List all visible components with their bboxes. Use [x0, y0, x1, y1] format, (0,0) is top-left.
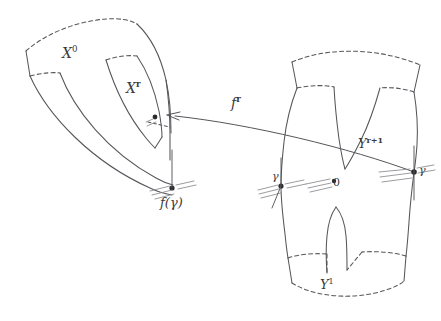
label-y1-sup: 1 — [329, 277, 334, 286]
left-region-group — [26, 19, 173, 195]
y1-notch-right-dashed-cap — [347, 252, 362, 270]
label-fr-sup: r — [236, 94, 241, 104]
yr1-left-outer-side — [281, 88, 297, 258]
hatch-marks-group — [146, 119, 435, 199]
tick-lines-group — [172, 146, 414, 208]
label-y1-base: Y — [320, 277, 329, 292]
label-yr1-sup: r+1 — [367, 135, 384, 145]
label-y1: Y1 — [320, 277, 334, 292]
x0-left-lower-dashed — [30, 73, 60, 76]
yr1-right-inner-dashed — [380, 88, 414, 92]
yr1-inner-notch-right — [345, 88, 380, 169]
y1-inner-leg-right — [336, 207, 347, 270]
label-fr: fr — [231, 94, 241, 111]
y1-left-skirt-edge — [288, 258, 292, 283]
label-x0-base: X — [62, 45, 72, 61]
xr-inner-left-boundary — [106, 60, 155, 148]
label-x0-sup: 0 — [72, 44, 78, 54]
arrow-target-point — [153, 115, 158, 120]
xr-slit-bottom — [155, 137, 162, 148]
xr-top-dashed-boundary — [106, 56, 137, 60]
y1-right-skirt-edge — [404, 256, 406, 281]
label-xr-base: X — [126, 80, 136, 96]
right-region-group — [281, 51, 420, 296]
label-xr-sup: r — [136, 79, 141, 89]
x0-top-dashed-boundary — [26, 19, 137, 51]
hatch-gamma-left — [258, 180, 306, 198]
hatch-zero — [306, 179, 332, 192]
label-yr1-base: Y — [358, 136, 367, 151]
marked-points-group — [153, 115, 417, 191]
yr1-top-dashed-boundary — [292, 51, 420, 65]
yr1-right-upper-edge — [414, 65, 420, 92]
hatch-gamma-right — [379, 165, 435, 182]
y1-bottom-dashed-boundary — [292, 281, 404, 296]
yr1-left-upper-edge — [292, 62, 297, 88]
x0-left-solid-edge — [26, 51, 30, 76]
label-xr: Xr — [126, 79, 141, 96]
label-gamma-right: γ — [419, 164, 426, 177]
label-yr1: Yr+1 — [358, 135, 383, 151]
yr1-left-inner-dashed — [297, 86, 334, 88]
y1-right-bottom-dashed — [362, 252, 406, 256]
label-zero: 0 — [333, 176, 340, 189]
y1-left-bottom-dashed — [288, 254, 327, 258]
xr-lower-stem-left — [166, 80, 170, 160]
label-f-gamma: f(γ) — [160, 195, 183, 210]
y1-inner-leg-left — [326, 207, 336, 273]
yr1-inner-notch-left — [334, 87, 345, 169]
label-x0: X0 — [62, 44, 78, 61]
label-gamma-left: γ — [272, 170, 279, 183]
